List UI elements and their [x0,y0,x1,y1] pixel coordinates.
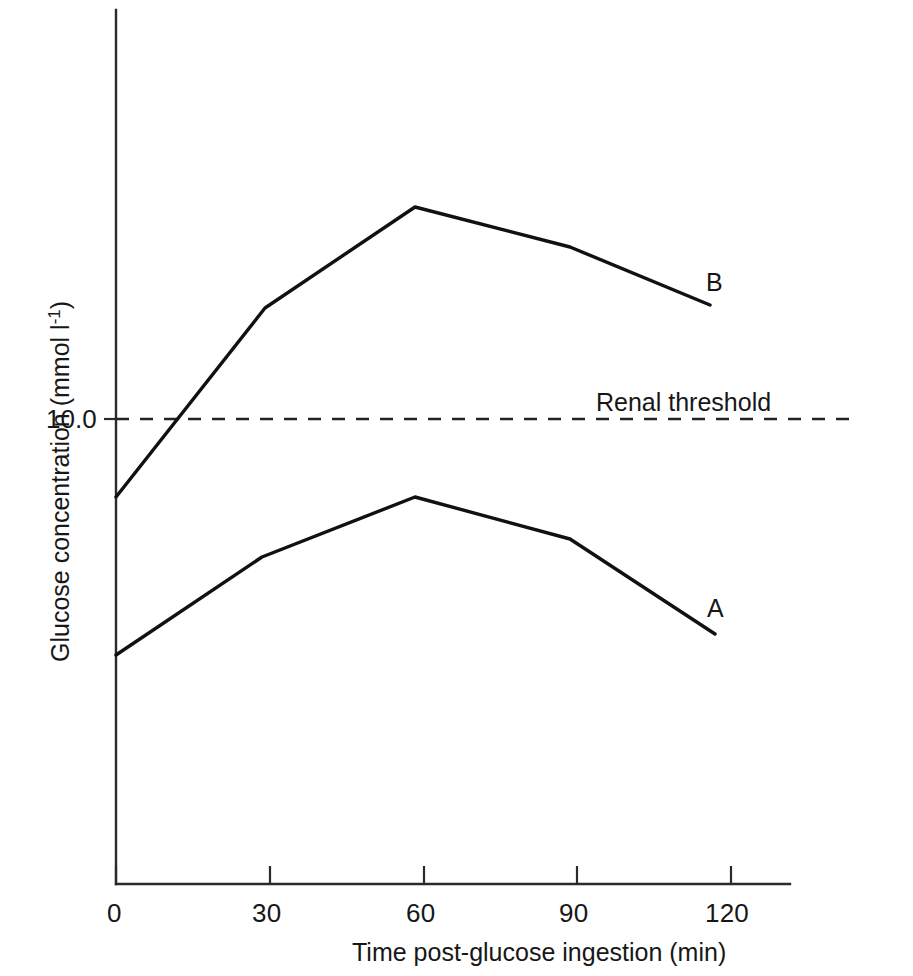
renal-threshold-label: Renal threshold [596,388,771,417]
y-axis-title-main: Glucose concentration (mmol l [46,324,74,662]
series-label-b: B [706,268,723,297]
y-axis-title-superscript: -1 [45,309,64,324]
y-axis-title: Glucose concentration (mmol l-1) [46,301,75,662]
x-tick-label-90: 90 [559,898,588,929]
x-tick-label-0: 0 [107,898,122,929]
series-line-a [116,497,715,655]
series-line-b [116,207,710,497]
chart-canvas [0,0,913,976]
glucose-tolerance-chart: 10.0 0 30 60 90 120 Time post-glucose in… [0,0,913,976]
x-tick-label-60: 60 [406,898,435,929]
x-axis-title: Time post-glucose ingestion (min) [352,938,726,967]
series-label-a: A [707,594,724,623]
x-tick-label-120: 120 [705,898,749,929]
y-axis-title-tail: ) [46,301,74,309]
x-tick-label-30: 30 [252,898,281,929]
